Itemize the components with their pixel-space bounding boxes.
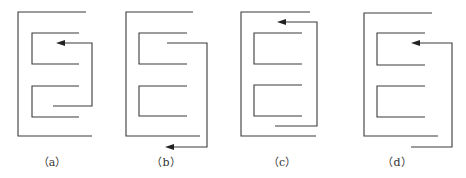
panel-label-c: （c）: [268, 153, 296, 169]
e-shaped-wire-diagrams: [0, 0, 466, 178]
panel-label-b: （b）: [151, 153, 180, 169]
arrowhead-icon: [165, 144, 174, 150]
panel-a-diagram: [18, 12, 92, 136]
inner-lower-loop: [377, 86, 425, 117]
outer-e-frame: [241, 12, 316, 136]
inner-lower-loop: [32, 86, 79, 117]
inner-upper-loop: [377, 33, 425, 65]
arrowhead-icon: [277, 19, 286, 25]
outer-e-frame: [126, 12, 200, 136]
inner-upper-loop: [139, 33, 187, 64]
inner-lower-loop: [254, 85, 302, 116]
inner-lower-loop: [139, 86, 187, 116]
arrowhead-icon: [411, 40, 420, 46]
panel-label-d: （d）: [382, 153, 411, 169]
current-path-arrow-icon: [53, 43, 92, 106]
panel-c-diagram: [241, 12, 317, 136]
panel-d-diagram: [364, 13, 452, 147]
panel-label-a: （a）: [38, 153, 67, 169]
inner-upper-loop: [32, 33, 79, 64]
panel-b-diagram: [126, 12, 207, 150]
current-path-arrow-icon: [275, 22, 317, 126]
inner-upper-loop: [254, 33, 302, 64]
arrowhead-icon: [56, 40, 65, 46]
current-path-arrow-icon: [411, 43, 452, 147]
current-path-arrow-icon: [167, 43, 207, 147]
